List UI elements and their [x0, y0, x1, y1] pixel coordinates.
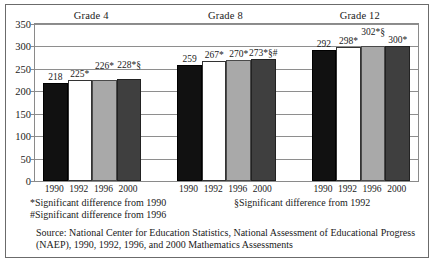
figure-container: Grade 4Grade 8Grade 12 05010015020025030…: [5, 4, 429, 258]
y-tick-label-150: 150: [15, 108, 31, 119]
x-axis-tick-labels: 1990199219962000199019921996200019901992…: [34, 183, 419, 196]
bar-value-label-grade-8-1990: 259: [182, 54, 196, 65]
y-tick-label-100: 100: [15, 131, 31, 142]
bar-value-label-grade-4-1996: 226*: [95, 61, 114, 72]
y-tick-label-250: 250: [15, 63, 31, 74]
footnote-hash: #Significant difference from 1996: [30, 209, 166, 221]
bar-grade-8-1996[interactable]: 270*: [226, 60, 251, 181]
bar-value-label-grade-8-1992: 267*: [205, 50, 224, 61]
bar-grade-12-1992[interactable]: 298*: [336, 47, 361, 181]
x-tick-label-grade-8-1996: 1996: [226, 183, 251, 195]
footnote-row-1: *Significant difference from 1990 §Signi…: [30, 197, 420, 209]
bar-value-label-grade-4-1992: 225*: [70, 69, 89, 80]
y-tick-label-50: 50: [21, 153, 32, 164]
footnote-row-2: #Significant difference from 1996: [30, 209, 420, 221]
y-tick-label-300: 300: [15, 41, 31, 52]
x-tick-label-grade-4-2000: 2000: [116, 183, 141, 195]
group-header-grade-12: Grade 12: [303, 9, 417, 23]
bar-value-label-grade-12-2000: 300*: [388, 35, 407, 46]
group-header-grade-8: Grade 8: [168, 9, 282, 23]
x-tick-label-grade-8-1992: 1992: [201, 183, 226, 195]
x-tick-label-grade-12-1992: 1992: [335, 183, 360, 195]
x-tick-label-grade-12-2000: 2000: [384, 183, 409, 195]
bar-grade-12-1990[interactable]: 292: [312, 50, 337, 181]
source-note: Source: National Center for Education St…: [36, 227, 421, 251]
bar-value-label-grade-12-1990: 292: [317, 39, 331, 50]
x-tick-label-grade-8-2000: 2000: [250, 183, 275, 195]
footnote-star: *Significant difference from 1990: [30, 197, 166, 209]
bar-grade-4-1990[interactable]: 218: [43, 83, 68, 181]
bar-grade-12-2000[interactable]: 300*: [385, 46, 410, 181]
bar-grade-8-1992[interactable]: 267*: [202, 61, 227, 181]
bar-value-label-grade-4-2000: 228*§: [117, 60, 141, 71]
x-tick-label-grade-12-1990: 1990: [311, 183, 336, 195]
bar-group-grade-12: 292298*302*§300*: [304, 24, 418, 181]
bar-grade-8-1990[interactable]: 259: [177, 65, 202, 181]
bar-grade-8-2000[interactable]: 273*§#: [251, 59, 276, 181]
source-line-1: Source: National Center for Education St…: [36, 227, 421, 239]
bar-grade-4-1996[interactable]: 226*: [92, 80, 117, 181]
plot-frame: 050100150200250300350218225*226*228*§259…: [34, 23, 419, 182]
footnote-section: §Significant difference from 1992: [234, 197, 370, 209]
bar-group-grade-8: 259267*270*273*§#: [169, 24, 283, 181]
y-tick-label-350: 350: [15, 19, 31, 30]
bar-grade-12-1996[interactable]: 302*§: [361, 46, 386, 181]
y-tick-mark-0: [31, 181, 35, 182]
x-tick-label-grade-4-1990: 1990: [42, 183, 67, 195]
bar-value-label-grade-12-1992: 298*: [339, 36, 358, 47]
x-tick-label-grade-4-1992: 1992: [67, 183, 92, 195]
footnote-block: *Significant difference from 1990 §Signi…: [30, 197, 420, 220]
bar-value-label-grade-4-1990: 218: [48, 72, 62, 83]
group-header-grade-4: Grade 4: [34, 9, 148, 23]
bar-group-grade-4: 218225*226*228*§: [35, 24, 149, 181]
x-tick-label-grade-12-1996: 1996: [360, 183, 385, 195]
source-line-2: (NAEP), 1990, 1992, 1996, and 2000 Mathe…: [36, 239, 421, 251]
y-tick-label-200: 200: [15, 86, 31, 97]
bar-grade-4-2000[interactable]: 228*§: [117, 79, 142, 181]
group-header-row: Grade 4Grade 8Grade 12: [6, 9, 428, 24]
x-tick-label-grade-8-1990: 1990: [176, 183, 201, 195]
bar-grade-4-1992[interactable]: 225*: [68, 80, 93, 181]
bar-value-label-grade-8-1996: 270*: [229, 49, 248, 60]
x-tick-label-grade-4-1996: 1996: [91, 183, 116, 195]
bar-value-label-grade-12-1996: 302*§: [361, 27, 385, 38]
bar-value-label-grade-8-2000: 273*§#: [249, 48, 278, 59]
plot-area: 050100150200250300350218225*226*228*§259…: [35, 24, 418, 181]
